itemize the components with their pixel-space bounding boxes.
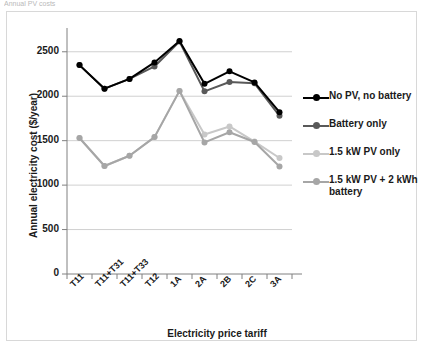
data-point bbox=[227, 68, 233, 74]
figure: Annual PV costs Annual electricity cost … bbox=[0, 0, 425, 352]
axis-lines bbox=[67, 28, 302, 274]
data-series bbox=[77, 88, 283, 169]
data-point bbox=[202, 139, 208, 145]
data-point bbox=[277, 163, 283, 169]
data-series bbox=[77, 38, 283, 115]
legend-item-label: Battery only bbox=[329, 118, 387, 130]
data-point bbox=[102, 86, 108, 92]
chart-legend: No PV, no batteryBattery only1.5 kW PV o… bbox=[303, 90, 425, 212]
data-point bbox=[277, 109, 283, 115]
legend-item[interactable]: 1.5 kW PV + 2 kWh battery bbox=[303, 174, 425, 198]
data-point bbox=[202, 88, 208, 94]
data-series bbox=[77, 39, 283, 119]
data-point bbox=[227, 79, 233, 85]
data-point bbox=[152, 59, 158, 65]
y-tick-label: 1000 bbox=[15, 178, 59, 189]
data-point bbox=[227, 123, 233, 129]
y-tick-label: 2500 bbox=[15, 45, 59, 56]
data-point bbox=[152, 134, 158, 140]
legend-marker-icon bbox=[303, 175, 329, 188]
series-line bbox=[80, 91, 280, 166]
y-tick-label: 2000 bbox=[15, 89, 59, 100]
y-tick-label: 1500 bbox=[15, 134, 59, 145]
x-axis-title: Electricity price tariff bbox=[127, 328, 307, 339]
legend-item-label: No PV, no battery bbox=[329, 90, 411, 102]
data-point bbox=[177, 88, 183, 94]
data-point bbox=[127, 76, 133, 82]
data-point bbox=[102, 163, 108, 169]
data-point bbox=[227, 129, 233, 135]
gridlines bbox=[67, 52, 292, 230]
y-tick-label: 0 bbox=[15, 267, 59, 278]
legend-item-label: 1.5 kW PV only bbox=[329, 146, 400, 158]
data-series-layer bbox=[77, 38, 283, 169]
data-point bbox=[127, 153, 133, 159]
data-point bbox=[252, 139, 258, 145]
data-point bbox=[77, 62, 83, 68]
series-line bbox=[80, 91, 280, 167]
y-tick-label: 500 bbox=[15, 223, 59, 234]
data-point bbox=[77, 135, 83, 141]
legend-marker-icon bbox=[303, 91, 329, 104]
caption-fragment: Annual PV costs bbox=[4, 0, 154, 8]
series-line bbox=[80, 42, 280, 116]
data-point bbox=[177, 38, 183, 44]
data-point bbox=[252, 79, 258, 85]
data-series bbox=[77, 88, 283, 170]
chart-frame: Annual electricity cost ($/year) Electri… bbox=[6, 11, 417, 341]
legend-item[interactable]: 1.5 kW PV only bbox=[303, 146, 425, 160]
data-point bbox=[202, 81, 208, 87]
legend-marker-icon bbox=[303, 147, 329, 160]
legend-marker-icon bbox=[303, 119, 329, 132]
data-point bbox=[277, 155, 283, 161]
legend-item[interactable]: No PV, no battery bbox=[303, 90, 425, 104]
legend-item-label: 1.5 kW PV + 2 kWh battery bbox=[329, 174, 425, 198]
legend-item[interactable]: Battery only bbox=[303, 118, 425, 132]
